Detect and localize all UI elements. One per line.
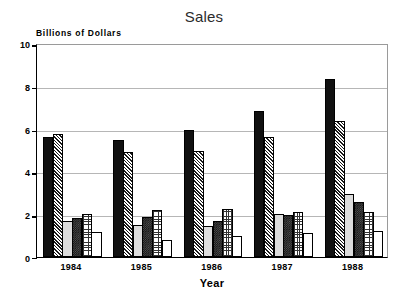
bar [303,233,313,257]
x-axis-tick-label: 1985 [131,262,152,272]
bar [91,232,101,257]
y-axis-tick-label: 0 [25,255,30,264]
y-axis-tick-label: 6 [25,126,30,135]
bar-group [325,45,383,257]
bar [162,240,172,257]
y-axis-tick-label: 8 [25,83,30,92]
y-axis-tick-label: 2 [25,212,30,221]
bar-group [184,45,242,257]
bar [373,231,383,257]
x-axis-tick-label: 1987 [272,262,293,272]
plot-area: 0246810 [36,44,388,258]
bars-layer [37,45,387,257]
bar [232,236,242,257]
bar-group [113,45,171,257]
x-axis-tick-label: 1984 [60,262,81,272]
y-axis-label: Billions of Dollars [36,28,122,38]
x-axis-tick-label: 1988 [342,262,363,272]
y-axis-tick [32,258,37,260]
bar-group [43,45,101,257]
y-axis-tick-label: 10 [20,41,30,50]
x-axis-tick-label: 1986 [201,262,222,272]
bar-group [254,45,312,257]
sales-bar-chart: Sales Billions of Dollars 0246810 198419… [0,0,408,302]
y-axis-tick-label: 4 [25,169,30,178]
chart-title: Sales [0,8,408,25]
x-axis-label: Year [36,277,388,289]
